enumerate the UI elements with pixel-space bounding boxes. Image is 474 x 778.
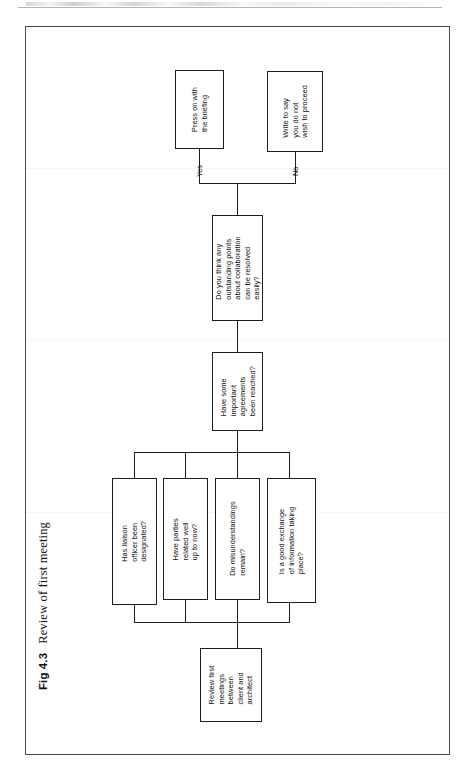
edge-bottom-bus-riser-3 [237, 600, 238, 622]
node-write-to-say-not-proceed[interactable]: Write to say you do not wish to proceed [267, 71, 323, 152]
node-agreements-reached[interactable]: Have some important agreements been reac… [212, 352, 263, 431]
node-misunderstandings-remain[interactable]: Do misunderstandings remain? [215, 478, 260, 600]
edge-label-yes: Yes [195, 165, 204, 177]
node-label: Is a good exchange of information taking… [277, 507, 306, 575]
edge-top-bus [134, 452, 290, 453]
node-label: Has liaison officer been designated? [120, 521, 149, 562]
figure-number: Fig 4.3 [37, 653, 49, 690]
figure-title: Review of first meeting [36, 522, 51, 644]
edge-label-no: No [291, 167, 300, 176]
node-points-resolved-easily[interactable]: Do you think any outstanding points abou… [212, 215, 263, 321]
edge-start-to-bottom-bus [237, 622, 238, 648]
node-label: Have some important agreements been reac… [218, 367, 256, 417]
edge-top-bus-drop-3 [237, 452, 238, 478]
edge-decision-to-bus [237, 183, 238, 215]
node-liaison-officer-designated[interactable]: Has liaison officer been designated? [112, 478, 157, 605]
figure-caption: Fig 4.3 Review of first meeting [36, 522, 51, 690]
edge-bottom-bus-riser-2 [185, 600, 186, 622]
edge-top-bus-drop-1 [134, 452, 135, 478]
node-label: Have parties related well up to now? [171, 518, 200, 560]
scan-band [26, 168, 449, 169]
edge-bottom-bus-riser-1 [134, 605, 135, 622]
edge-bottom-bus [134, 622, 290, 623]
edge-topbus-to-agreements [237, 431, 238, 452]
edge-top-bus-drop-2 [185, 452, 186, 478]
node-label: Do misunderstandings remain? [228, 502, 247, 577]
node-label: Write to say you do not wish to proceed [281, 85, 310, 138]
edge-yes-no-bus [199, 183, 296, 184]
node-press-on-with-briefing[interactable]: Press on with the briefing [175, 70, 224, 149]
edge-top-bus-drop-4 [289, 452, 290, 478]
scan-header-remnant [26, 2, 424, 6]
node-parties-related-well[interactable]: Have parties related well up to now? [163, 478, 208, 600]
node-label: Do you think any outstanding points abou… [214, 236, 262, 299]
scan-header-rule [18, 7, 442, 8]
edge-agreements-to-resolved [237, 321, 238, 352]
node-label: Press on with the briefing [190, 87, 209, 132]
edge-bottom-bus-riser-4 [289, 603, 290, 622]
node-label: Review first meetings between client and… [207, 666, 255, 705]
node-review-first-meetings[interactable]: Review first meetings between client and… [200, 648, 262, 722]
node-good-exchange-of-information[interactable]: Is a good exchange of information taking… [267, 478, 316, 603]
